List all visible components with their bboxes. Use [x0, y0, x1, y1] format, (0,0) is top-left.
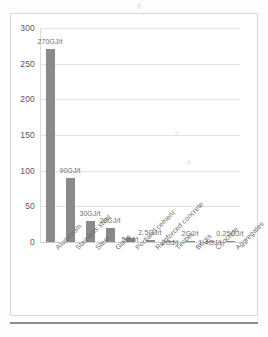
y-axis-tick-label: 50: [25, 201, 35, 211]
y-axis-tick-label: 300: [20, 23, 35, 33]
page-bottom-rule: [10, 322, 258, 324]
y-axis-tick-label: 150: [20, 130, 35, 140]
gridline: [40, 28, 240, 29]
x-axis-category-label: Timber: [174, 246, 179, 251]
x-axis-category-label: Glass: [114, 246, 119, 251]
gridline: [40, 135, 240, 136]
y-axis-tick-label: 250: [20, 59, 35, 69]
x-axis-category-label: Aggregates: [234, 246, 239, 251]
y-axis-tick-label: 200: [20, 94, 35, 104]
bar: [46, 49, 55, 242]
scan-speckle: [187, 160, 191, 165]
x-axis-category-label: Bricks: [194, 246, 199, 251]
y-axis-tick-label: 0: [30, 237, 35, 247]
x-axis-category-label: Steel: [94, 246, 99, 251]
scan-speckle: [137, 3, 141, 9]
scan-speckle: [175, 131, 178, 135]
plot-area: 050100150200250300270GJ/t90GJ/t30GJ/t20G…: [40, 28, 240, 242]
bar-value-label: 90GJ/t: [59, 167, 80, 174]
category-axis-labels: AluminiumStainless steelSteelGlassPortla…: [40, 246, 240, 306]
scanned-page-background: 050100150200250300270GJ/t90GJ/t30GJ/t20G…: [0, 0, 268, 337]
x-axis-category-label: Concrete: [214, 246, 219, 251]
x-axis-category-label: Stainless steel: [74, 246, 79, 251]
x-axis-category-label: Portland cement: [134, 246, 139, 251]
bar-value-label: 30GJ/t: [79, 210, 100, 217]
y-axis-tick-label: 100: [20, 166, 35, 176]
x-axis-category-label: Reinforced concrete: [154, 246, 159, 251]
bar-value-label: 270GJ/t: [37, 38, 62, 45]
gridline: [40, 99, 240, 100]
x-axis-category-label: Aluminium: [54, 246, 59, 251]
gridline: [40, 64, 240, 65]
